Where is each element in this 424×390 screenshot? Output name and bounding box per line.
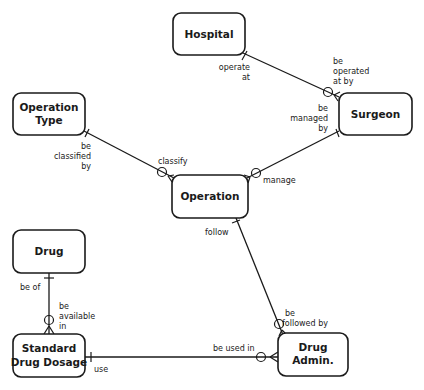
entity-drug[interactable]: Drug [13,230,85,273]
cardinality-zero-many-icon [158,168,175,183]
entity-label: Hospital [184,28,233,40]
svg-text:be: be [59,302,69,311]
svg-text:at: at [242,73,250,82]
relationship-surgeon-operation [247,131,339,178]
svg-text:in: in [59,322,66,331]
relationship-operationtype-operation [84,131,174,178]
entity-operation-type[interactable]: Operation Type [13,93,85,135]
svg-text:operate: operate [219,63,250,72]
svg-text:use: use [94,365,108,374]
role-label-classify: classify [158,157,188,166]
svg-text:be: be [318,104,328,113]
entity-label: Operation [19,101,78,113]
svg-text:be used in: be used in [213,344,255,353]
entity-label: Surgeon [351,108,401,120]
role-label-be-available-in: be available in [59,302,95,331]
entity-label: Drug [299,341,328,353]
role-label-be-classified-by: be classified by [54,142,91,171]
entity-operation[interactable]: Operation [172,175,248,218]
entity-label: Standard [22,342,76,354]
role-label-manage: manage [263,176,296,185]
svg-text:classified: classified [54,152,91,161]
role-label-be-of: be of [20,283,40,292]
entity-label: Operation [180,190,239,202]
entity-label: Drug [35,245,64,257]
cardinality-zero-many-icon [324,88,341,102]
svg-text:operated: operated [333,67,369,76]
svg-text:be: be [285,309,295,318]
entity-standard-drug-dosage[interactable]: Standard Drug Dosage [11,334,87,377]
svg-text:follow: follow [205,228,229,237]
role-label-be-followed-by: be followed by [282,309,328,328]
entity-hospital[interactable]: Hospital [173,13,245,55]
svg-text:followed by: followed by [282,319,328,328]
relationship-hospital-surgeon [243,53,339,97]
svg-text:at by: at by [333,77,354,86]
svg-text:be of: be of [20,283,40,292]
cardinality-one-icon [232,220,240,223]
entity-label: Type [35,114,62,126]
svg-text:be: be [333,57,343,66]
entity-label: Drug Dosage [11,356,87,368]
svg-text:managed: managed [290,114,328,123]
entity-drug-admin[interactable]: Drug Admin. [278,333,348,376]
role-label-be-operated-at-by: be operated at by [333,57,369,86]
role-label-be-used-in: be used in [213,344,255,353]
svg-text:available: available [59,312,95,321]
role-label-operate-at: operate at [219,63,250,82]
svg-text:by: by [318,124,328,133]
relationship-operation-drugadmin [236,218,283,335]
entity-surgeon[interactable]: Surgeon [339,93,412,135]
er-diagram: Hospital Surgeon Operation Type Operatio… [0,0,424,390]
role-label-follow: follow [205,228,229,237]
svg-text:by: by [81,162,91,171]
svg-text:be: be [81,142,91,151]
svg-text:classify: classify [158,157,188,166]
svg-text:manage: manage [263,176,296,185]
entity-label: Admin. [292,354,334,366]
role-label-use: use [94,365,108,374]
role-label-be-managed-by: be managed by [290,104,328,133]
